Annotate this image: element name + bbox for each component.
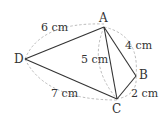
- point-label-D: D: [14, 53, 24, 65]
- length-label-DA: 6 cm: [41, 22, 68, 33]
- point-label-B: B: [139, 69, 148, 81]
- geometry-figure: A B C D 6 cm 4 cm 2 cm 7 cm 5 cm: [0, 0, 165, 121]
- length-label-BC: 2 cm: [131, 88, 158, 99]
- length-label-AB: 4 cm: [125, 40, 152, 51]
- length-label-AC: 5 cm: [81, 54, 108, 65]
- point-label-A: A: [99, 12, 108, 24]
- length-label-DC: 7 cm: [51, 88, 78, 99]
- point-label-C: C: [112, 103, 121, 115]
